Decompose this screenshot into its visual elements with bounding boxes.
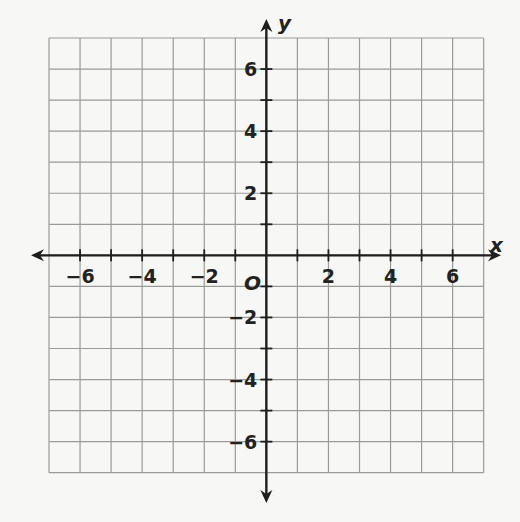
x-tick-label: 4 [384,265,397,287]
x-axis-label: x [489,233,504,257]
y-tick-label: 6 [244,58,257,80]
x-tick-label: 2 [322,265,335,287]
coordinate-plane: −6−4−2246642−2−4−6 x y O [0,0,520,522]
y-tick-label: 4 [244,120,257,142]
x-tick-label: 6 [446,265,459,287]
origin-label: O [244,271,261,295]
x-tick-label: −2 [190,265,219,287]
x-tick-label: −4 [128,265,157,287]
y-tick-label: −6 [228,431,257,453]
y-tick-label: −2 [228,306,257,328]
y-tick-label: 2 [244,182,257,204]
y-axis-label: y [278,11,292,35]
y-tick-label: −4 [228,369,257,391]
x-tick-label: −6 [65,265,94,287]
axes [31,19,501,503]
